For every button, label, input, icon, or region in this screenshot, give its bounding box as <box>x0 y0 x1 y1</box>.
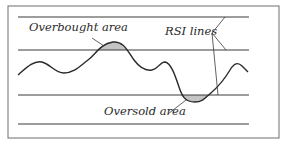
rsi-diagram: Overbought area RSI lines Oversold area <box>0 0 283 144</box>
oversold-label: Oversold area <box>104 104 186 118</box>
rsi-lines-label: RSI lines <box>164 24 217 38</box>
overbought-label: Overbought area <box>29 20 128 34</box>
